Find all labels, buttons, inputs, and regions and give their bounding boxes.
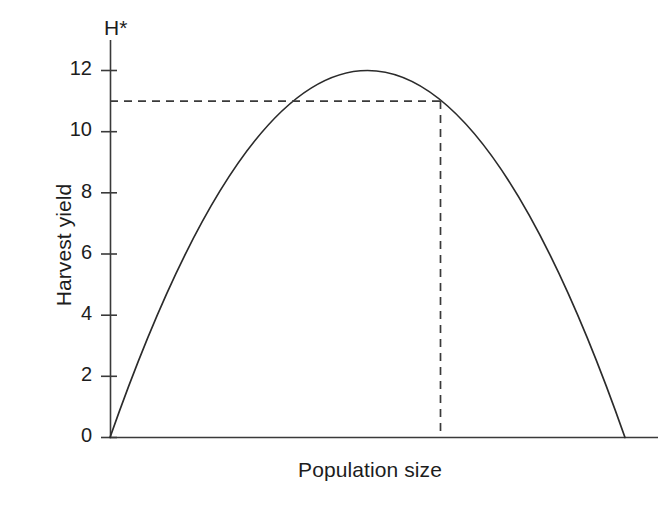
chart-plot-area: [0, 0, 672, 505]
y-axis-title: Harvest yield: [52, 95, 76, 395]
y-tick-label-0: 0: [52, 424, 92, 447]
h-star-label: H*: [104, 16, 127, 40]
y-tick-label-12: 12: [52, 57, 92, 80]
x-axis-title: Population size: [110, 458, 630, 482]
y-axis-ticks: [101, 71, 117, 438]
harvest-yield-curve: [110, 71, 625, 438]
harvest-yield-chart: H* 0 2 4 6 8 10 12 Harvest yield Populat…: [0, 0, 672, 505]
